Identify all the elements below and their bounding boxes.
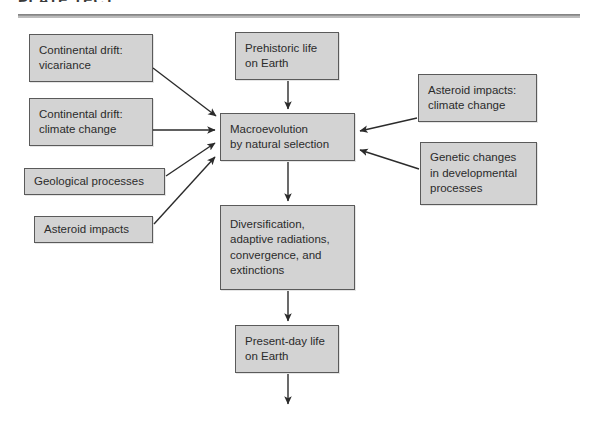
node-prehistoric-life-on-earth: Prehistoric lifeon Earth xyxy=(235,32,339,80)
edge-vicariance-to-macroevolution xyxy=(153,68,216,116)
header-rule-shadow xyxy=(18,17,580,18)
node-present-day-life-on-earth: Present-day lifeon Earth xyxy=(235,325,339,373)
diagram-canvas: PLATE TECT Continental drift:vicarianceC… xyxy=(0,0,596,434)
edge-geological-to-macroevolution xyxy=(166,143,215,176)
node-asteroid-impacts-climate-change: Asteroid impacts:climate change xyxy=(418,74,537,122)
node-label-line: processes xyxy=(430,181,527,197)
node-macroevolution-by-natural-selection: Macroevolutionby natural selection xyxy=(220,113,355,161)
node-label-line: Asteroid impacts xyxy=(44,222,143,238)
node-genetic-changes-in-developmental-processes: Genetic changesin developmentalprocesses xyxy=(420,142,537,205)
node-label-line: vicariance xyxy=(39,58,143,74)
node-diversification-adaptive-radiations: Diversification,adaptive radiations,conv… xyxy=(220,205,355,290)
node-label-line: Asteroid impacts: xyxy=(428,83,527,99)
node-label-line: Genetic changes xyxy=(430,150,527,166)
node-label-line: Prehistoric life xyxy=(245,41,329,57)
node-label-line: Continental drift: xyxy=(39,43,143,59)
node-label-line: in developmental xyxy=(430,166,527,182)
node-label-line: Diversification, xyxy=(230,217,345,233)
node-label-line: on Earth xyxy=(245,349,329,365)
page-title: PLATE TECT xyxy=(18,0,114,2)
node-label-line: climate change xyxy=(428,98,527,114)
node-label-line: convergence, and xyxy=(230,248,345,264)
node-label-line: climate change xyxy=(39,122,143,138)
node-label-line: adaptive radiations, xyxy=(230,232,345,248)
edge-genetic-to-macroevolution xyxy=(360,150,419,169)
node-label-line: extinctions xyxy=(230,263,345,279)
node-asteroid-impacts: Asteroid impacts xyxy=(34,216,153,243)
edge-asteroid-climate-to-macroevolution xyxy=(360,118,417,131)
node-label-line: Geological processes xyxy=(34,174,155,190)
node-label-line: Present-day life xyxy=(245,334,329,350)
node-continental-drift-climate-change: Continental drift:climate change xyxy=(29,98,153,146)
node-label-line: Macroevolution xyxy=(230,122,345,138)
node-continental-drift-vicariance: Continental drift:vicariance xyxy=(29,34,153,82)
node-label-line: by natural selection xyxy=(230,137,345,153)
node-label-line: Continental drift: xyxy=(39,107,143,123)
node-geological-processes: Geological processes xyxy=(24,168,165,195)
node-label-line: on Earth xyxy=(245,56,329,72)
